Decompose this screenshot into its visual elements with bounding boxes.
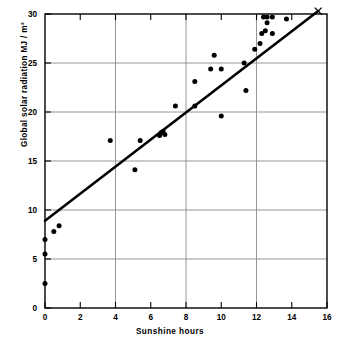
chart-figure: 0246810121416 051015202530 Global solar … (0, 0, 340, 343)
x-axis-label: Sunshine hours (0, 327, 340, 336)
x-tick-label: 6 (148, 313, 153, 322)
y-tick-label: 5 (32, 255, 37, 264)
scatter-plot-canvas: 0246810121416 051015202530 (0, 0, 340, 343)
y-tick-label: 25 (28, 59, 38, 68)
y-tick-label: 10 (28, 206, 38, 215)
y-tick-label: 15 (28, 157, 38, 166)
x-tick-label: 8 (184, 313, 189, 322)
regression-line (45, 11, 318, 221)
x-tick-label: 0 (43, 313, 48, 322)
y-tick-labels: 051015202530 (28, 10, 38, 313)
y-tick-label: 20 (28, 108, 38, 117)
x-tick-label: 14 (287, 313, 297, 322)
x-tick-label: 4 (113, 313, 118, 322)
data-points (43, 14, 289, 286)
x-tick-label: 2 (78, 313, 83, 322)
x-tick-label: 12 (252, 313, 262, 322)
x-tick-label: 16 (322, 313, 332, 322)
y-axis-label: Global solar radiation MJ / m² (20, 0, 29, 185)
x-tick-label: 10 (217, 313, 227, 322)
y-tick-label: 30 (28, 10, 38, 19)
y-tick-label: 0 (32, 304, 37, 313)
x-tick-labels: 0246810121416 (43, 313, 332, 322)
gridlines (45, 14, 327, 308)
